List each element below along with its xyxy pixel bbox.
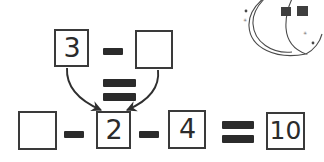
minus-operator-2 (139, 131, 159, 138)
box-four[interactable]: 4 (168, 110, 206, 149)
moon-outer-arc (249, 0, 306, 56)
sparkle-right-icon: ✳ (303, 30, 307, 36)
arrow-three-to-two (67, 68, 101, 110)
puzzle-canvas: 3 - ? = ? - 2 - 4 = 10 ✳ ✳ (0, 0, 324, 162)
moon-flags-group (281, 6, 308, 22)
minus-operator-1 (64, 131, 84, 138)
sparkle-glyphs-group: ✳ ✳ (243, 17, 307, 36)
bottom-equation-text: ? - 2 - 4 = 10 (0, 0, 1, 1)
star-small-left-icon (245, 10, 248, 13)
box-blank-top[interactable] (135, 30, 173, 69)
sparkles-group (245, 10, 315, 45)
flag-right-icon (297, 6, 308, 22)
star-dot-right-icon (312, 42, 315, 45)
box-blank-bottom[interactable] (18, 111, 57, 150)
crescent-moon-with-stars-icon (249, 0, 322, 56)
box-two-value: 2 (105, 116, 121, 143)
box-four-value: 4 (179, 115, 195, 142)
flag-left-icon (281, 7, 291, 22)
box-three-value: 3 (63, 34, 79, 61)
sparkle-left-icon: ✳ (243, 17, 247, 23)
minus-operator (103, 48, 123, 55)
box-ten[interactable]: 10 (266, 112, 305, 150)
box-two[interactable]: 2 (96, 111, 131, 149)
equals-operator-top (103, 79, 136, 101)
moon-inner-arc (253, 0, 292, 52)
equals-operator (222, 121, 254, 143)
box-ten-value: 10 (270, 118, 302, 143)
moon-tip-sweep (306, 34, 322, 54)
box-three[interactable]: 3 (54, 29, 89, 67)
top-equation-text: 3 - ? = (0, 0, 1, 1)
